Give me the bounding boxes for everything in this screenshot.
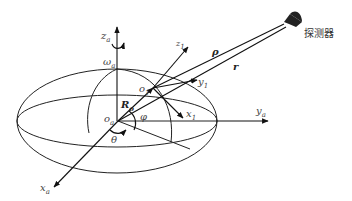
probe-icon bbox=[284, 12, 302, 27]
x-a-label: xa bbox=[40, 183, 50, 196]
o-a-label: oa bbox=[104, 114, 114, 127]
rotation-arrow bbox=[112, 43, 124, 48]
phi-label: φ bbox=[140, 112, 147, 122]
diagram-canvas bbox=[0, 0, 352, 201]
y1-axis bbox=[153, 80, 197, 88]
x-axis bbox=[54, 121, 118, 187]
omega-a-label: ωa bbox=[103, 57, 115, 70]
r-label: r bbox=[233, 62, 238, 72]
probe-label: 探测器 bbox=[304, 25, 334, 40]
y-a-label: ya bbox=[256, 106, 266, 119]
o-1-label: o1 bbox=[139, 84, 150, 97]
theta-arc bbox=[110, 130, 126, 133]
theta-label: θ bbox=[111, 135, 117, 145]
r-o-label: Ro bbox=[121, 100, 134, 112]
z-1-label: z1 bbox=[176, 40, 185, 51]
asteroid-coordinate-diagram: za ωa z1 ρ r y1 o1 Ro φ x1 oa θ ya xa 探测… bbox=[0, 0, 352, 201]
x-1-label: x1 bbox=[186, 109, 196, 122]
z-a-label: za bbox=[101, 31, 110, 44]
y-1-label: y1 bbox=[198, 77, 208, 90]
rho-label: ρ bbox=[212, 47, 219, 57]
